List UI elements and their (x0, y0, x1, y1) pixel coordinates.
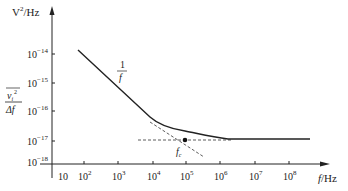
y-tick-label: 10−16 (27, 104, 48, 117)
x-tick-labels: 10 102 103 104 105 106 107 108 (58, 169, 297, 182)
svg-text:Δf: Δf (5, 104, 16, 115)
noise-curve (78, 50, 310, 139)
x-tick-label: 10 (58, 171, 68, 182)
y-tick-label: 10−15 (27, 76, 48, 89)
y-axis-arrow-icon (50, 6, 55, 15)
y-tick-label: 10−18 (27, 155, 48, 168)
x-tick-label: 107 (249, 169, 263, 182)
corner-frequency-marker (183, 138, 188, 143)
x-tick-label: 108 (283, 169, 297, 182)
x-axis-arrow-icon (320, 162, 330, 167)
y-axis-quantity-label: vi 2 Δf (5, 88, 22, 115)
corner-frequency-label: fc (176, 146, 182, 158)
one-over-f-annotation: 1 f (117, 59, 127, 83)
svg-text:1: 1 (120, 59, 125, 70)
y-tick-label: 10−17 (27, 134, 48, 147)
x-tick-label: 105 (180, 169, 194, 182)
x-tick-label: 103 (112, 169, 126, 182)
svg-text:f: f (119, 72, 123, 83)
noise-spectrum-chart: 10−14 10−15 10−16 10−17 10−18 10 102 103… (0, 0, 348, 191)
x-tick-label: 106 (214, 169, 228, 182)
y-tick-labels: 10−14 10−15 10−16 10−17 10−18 (27, 47, 48, 168)
svg-text:2: 2 (14, 89, 17, 95)
x-tick-label: 102 (78, 169, 92, 182)
svg-text:vi: vi (7, 90, 13, 102)
y-axis-unit-label: V2/Hz (12, 5, 39, 18)
x-axis-unit-label: f/Hz (318, 172, 337, 184)
y-tick-label: 10−14 (27, 47, 48, 60)
x-tick-label: 104 (147, 169, 161, 182)
